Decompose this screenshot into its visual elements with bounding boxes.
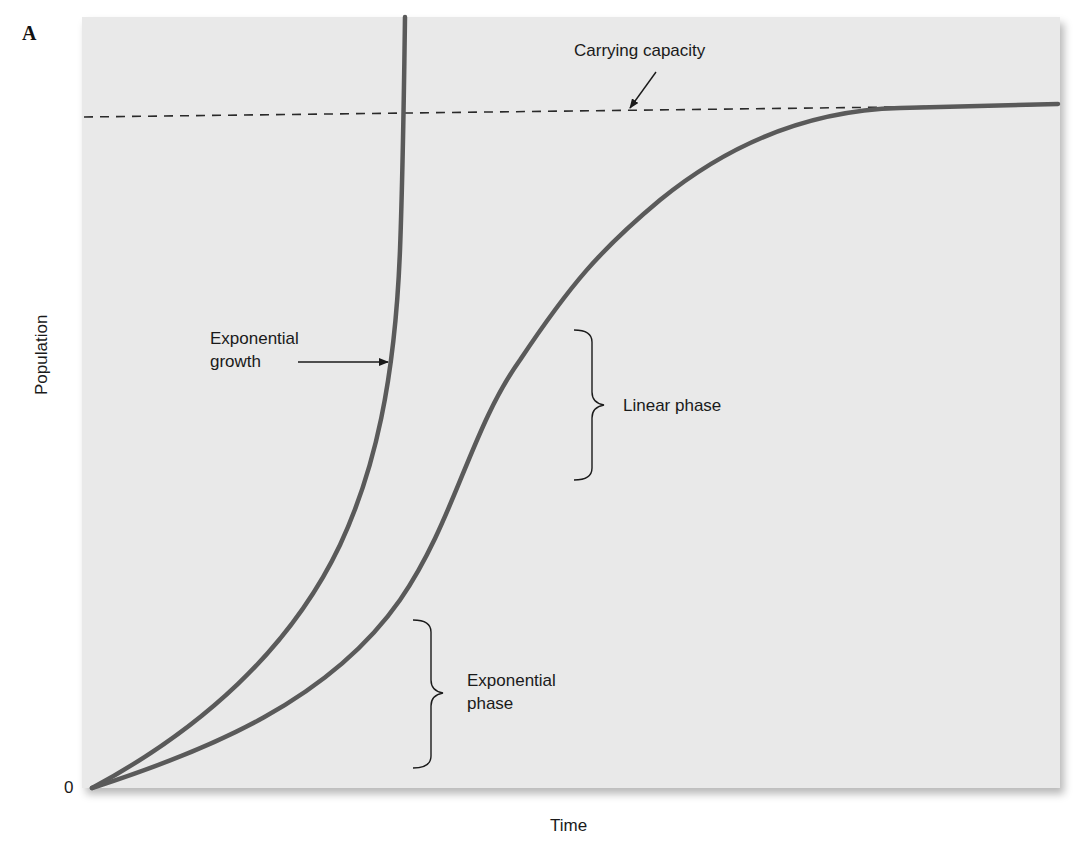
chart-canvas xyxy=(0,0,1092,845)
y-axis-label: Population xyxy=(32,315,52,395)
exponential-growth-label-line1: Exponential xyxy=(210,328,299,350)
exponential-growth-label-line2: growth xyxy=(210,351,261,373)
exponential-phase-brace xyxy=(413,620,443,768)
linear-phase-label: Linear phase xyxy=(623,395,721,417)
exponential-growth-curve xyxy=(92,17,405,788)
carrying-capacity-label: Carrying capacity xyxy=(574,40,705,62)
y-axis-origin-tick: 0 xyxy=(64,778,73,798)
exponential-phase-label-line1: Exponential xyxy=(467,670,556,692)
carrying-capacity-arrow xyxy=(630,72,656,108)
linear-phase-brace xyxy=(574,330,604,480)
x-axis-label: Time xyxy=(550,816,587,836)
exponential-phase-label-line2: phase xyxy=(467,693,513,715)
